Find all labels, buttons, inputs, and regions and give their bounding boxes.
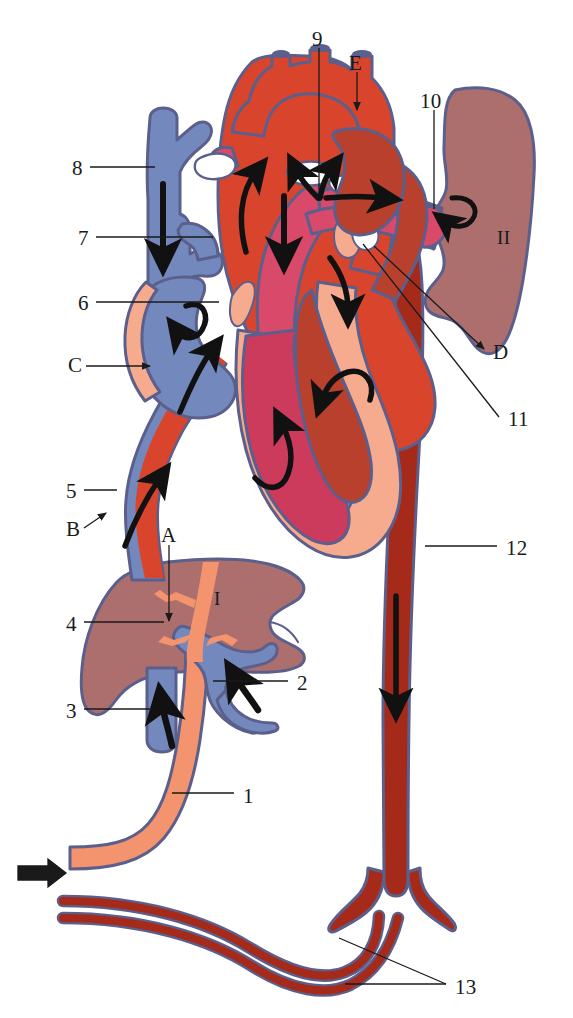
- label-7: 7: [78, 228, 89, 249]
- aortic-arch-branch-1-lumen: [272, 50, 290, 58]
- label-11: 11: [508, 409, 529, 430]
- label-5: 5: [66, 481, 77, 502]
- label-13: 13: [455, 977, 477, 998]
- label-8: 8: [72, 158, 83, 179]
- umbilical-inflow-arrow-icon: [18, 859, 66, 887]
- label-D: D: [493, 342, 508, 363]
- leader-line-B: [84, 513, 106, 528]
- fetal-circulation-figure: 12345678910111213ABCDEIII: [0, 0, 573, 1018]
- flow-arrow-portal-up: [236, 678, 258, 710]
- atrial-gap-left: [195, 154, 236, 180]
- iliac-bifurcation-right: [408, 868, 455, 931]
- label-1: 1: [243, 786, 254, 807]
- organ-label-lung: II: [497, 228, 510, 247]
- label-4: 4: [66, 614, 77, 635]
- umbilical-artery-upper: [63, 901, 379, 976]
- label-E: E: [349, 53, 362, 74]
- label-6: 6: [78, 293, 89, 314]
- flow-arrow-ductus-right: [326, 197, 384, 199]
- label-9: 9: [312, 29, 323, 50]
- label-3: 3: [66, 701, 77, 722]
- label-10: 10: [420, 91, 442, 112]
- organ-label-liver: I: [214, 589, 221, 608]
- label-2: 2: [297, 673, 308, 694]
- label-12: 12: [506, 538, 528, 559]
- label-C: C: [68, 355, 82, 376]
- label-B: B: [66, 519, 80, 540]
- circulation-artwork: [0, 0, 573, 1018]
- label-A: A: [161, 525, 176, 546]
